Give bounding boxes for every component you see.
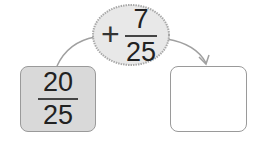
operation-fraction: 7 25: [124, 6, 158, 66]
answer-box[interactable]: [170, 66, 247, 132]
start-fraction: 20 25: [20, 69, 96, 129]
plus-sign: +: [101, 18, 120, 50]
start-numerator: 20: [43, 69, 73, 96]
operation-denominator: 25: [126, 39, 156, 66]
start-denominator: 25: [43, 102, 73, 129]
left-connector: [57, 37, 95, 66]
right-connector: [167, 39, 206, 63]
operation-numerator: 7: [133, 6, 148, 33]
